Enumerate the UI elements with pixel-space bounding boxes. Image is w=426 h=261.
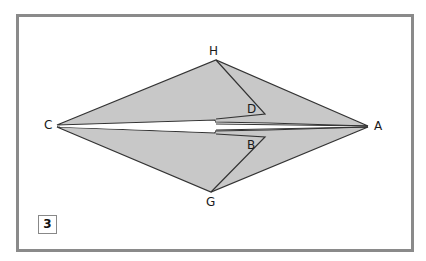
label-g: G [206,196,215,208]
label-c: C [44,119,52,131]
step-number-badge: 3 [38,215,57,234]
label-a: A [374,120,382,132]
label-d: D [247,103,256,115]
label-b: B [247,139,255,151]
lower-flap [57,127,368,192]
upper-flap [57,60,368,126]
label-h: H [209,45,218,57]
folded-kite-shape [0,0,426,261]
